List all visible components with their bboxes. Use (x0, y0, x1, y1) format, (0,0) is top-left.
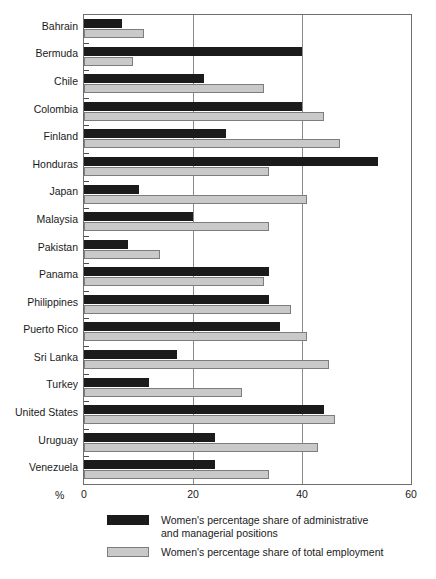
bar-total-employment (84, 84, 264, 93)
bar-admin-managerial (84, 185, 139, 194)
bar-admin-managerial (84, 350, 177, 359)
bar-admin-managerial (84, 322, 280, 331)
bar-admin-managerial (84, 405, 324, 414)
bar-admin-managerial (84, 433, 215, 442)
bar-admin-managerial (84, 295, 269, 304)
bar-admin-managerial (84, 157, 378, 166)
category-label: Bermuda (0, 48, 78, 59)
category-tick (84, 346, 89, 347)
bar-total-employment (84, 277, 264, 286)
x-axis-tick-label: 60 (405, 488, 417, 500)
bar-total-employment (84, 360, 329, 369)
bar-total-employment (84, 305, 291, 314)
legend-item: Women's percentage share of administrati… (107, 514, 427, 539)
category-tick (84, 291, 89, 292)
bar-admin-managerial (84, 74, 204, 83)
category-tick (84, 236, 89, 237)
category-tick (84, 429, 89, 430)
bar-total-employment (84, 195, 307, 204)
category-label: Chile (0, 76, 78, 87)
category-tick (84, 70, 89, 71)
x-axis-tick-label: 20 (187, 488, 199, 500)
category-label: Sri Lanka (0, 352, 78, 363)
bar-admin-managerial (84, 212, 193, 221)
bar-total-employment (84, 415, 335, 424)
category-axis-labels: BahrainBermudaChileColombiaFinlandHondur… (0, 14, 78, 485)
category-label: Philippines (0, 297, 78, 308)
bar-total-employment (84, 332, 307, 341)
category-tick (84, 43, 89, 44)
x-axis-unit-label: % (55, 489, 64, 501)
bar-total-employment (84, 139, 340, 148)
category-tick (84, 401, 89, 402)
x-axis-tick-label: 0 (81, 488, 87, 500)
category-label: United States (0, 407, 78, 418)
bar-total-employment (84, 250, 160, 259)
bar-admin-managerial (84, 460, 215, 469)
category-label: Panama (0, 269, 78, 280)
bar-total-employment (84, 112, 324, 121)
category-label: Turkey (0, 379, 78, 390)
legend-item: Women's percentage share of total employ… (107, 546, 427, 566)
legend-label: Women's percentage share of total employ… (161, 546, 427, 559)
category-tick (84, 456, 89, 457)
category-tick (84, 263, 89, 264)
category-tick (84, 318, 89, 319)
category-tick (84, 153, 89, 154)
bar-admin-managerial (84, 47, 302, 56)
category-tick (84, 98, 89, 99)
category-label: Malaysia (0, 214, 78, 225)
category-label: Pakistan (0, 242, 78, 253)
category-label: Bahrain (0, 21, 78, 32)
bar-total-employment (84, 29, 144, 38)
category-tick (84, 125, 89, 126)
category-label: Finland (0, 131, 78, 142)
category-tick (84, 181, 89, 182)
category-label: Puerto Rico (0, 324, 78, 335)
category-tick (84, 374, 89, 375)
bar-admin-managerial (84, 19, 122, 28)
legend-label: Women's percentage share of administrati… (161, 514, 427, 539)
category-tick (84, 208, 89, 209)
plot-area (83, 14, 412, 485)
x-axis-tick-labels: 0204060 (0, 488, 436, 504)
horizontal-bar-chart: BahrainBermudaChileColombiaFinlandHondur… (0, 0, 436, 579)
bar-total-employment (84, 222, 269, 231)
bar-admin-managerial (84, 102, 302, 111)
x-axis-tick-label: 40 (296, 488, 308, 500)
legend-swatch-light (107, 547, 149, 557)
bar-total-employment (84, 57, 133, 66)
chart-legend: Women's percentage share of administrati… (107, 514, 427, 573)
bar-admin-managerial (84, 267, 269, 276)
bar-admin-managerial (84, 378, 149, 387)
category-label: Colombia (0, 104, 78, 115)
legend-swatch-dark (107, 515, 149, 525)
bar-total-employment (84, 470, 269, 479)
bar-total-employment (84, 167, 269, 176)
bar-total-employment (84, 388, 242, 397)
category-label: Honduras (0, 159, 78, 170)
category-label: Japan (0, 186, 78, 197)
category-label: Uruguay (0, 435, 78, 446)
bar-total-employment (84, 443, 318, 452)
category-label: Venezuela (0, 462, 78, 473)
bar-admin-managerial (84, 129, 226, 138)
bar-admin-managerial (84, 240, 128, 249)
